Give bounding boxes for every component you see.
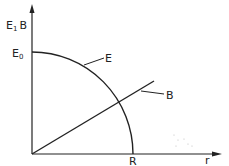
diagram-canvas: E1B E0 E B R r (0, 0, 229, 166)
e0-label: E0 (12, 47, 23, 61)
x-axis-label: r (205, 154, 210, 166)
b-line-label: B (166, 89, 174, 102)
y-axis-arrow-icon (30, 4, 35, 13)
y-axis-label: E1B (6, 19, 27, 33)
scan-noise (173, 134, 192, 146)
r-intercept-label: R (129, 155, 137, 166)
e-curve-label: E (105, 52, 112, 65)
b-line-leader (141, 91, 164, 94)
b-field-line (32, 81, 154, 154)
x-axis-arrow-icon (212, 152, 222, 157)
e-curve-leader (84, 58, 104, 65)
